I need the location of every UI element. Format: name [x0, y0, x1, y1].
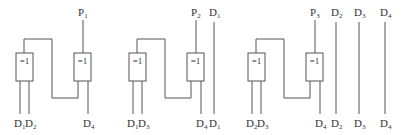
input-label-2: D3 [138, 117, 150, 131]
data-label-bottom: D3 [354, 117, 366, 131]
input-label-3: D4 [315, 117, 327, 131]
xor-gate-label: =1 [252, 56, 262, 66]
parity-label: P1 [78, 6, 88, 20]
xor-gate-1: =1 [129, 53, 146, 81]
xor-gate-2: =1 [187, 53, 204, 81]
xor-gate-label: =1 [78, 56, 88, 66]
data-label-top: D4 [380, 6, 392, 20]
xor-gate-2: =1 [74, 53, 91, 81]
xor-gate-2: =1 [306, 53, 323, 81]
data-label-bottom: D4 [380, 117, 392, 131]
parity-block-2: =1=1P2D1D3D4 [127, 6, 208, 131]
xor-gate-label: =1 [20, 56, 30, 66]
passthrough-line-D4: D4D4 [380, 6, 392, 131]
data-label-top: D1 [209, 6, 221, 20]
parity-block-1: =1=1P1D1D2D4 [14, 6, 95, 131]
passthrough-line-D1: D1D1 [209, 6, 221, 131]
parity-circuit-diagram: =1=1P1D1D2D4=1=1P2D1D3D4=1=1P3D2D3D4D1D1… [0, 0, 404, 135]
xor-gate-1: =1 [248, 53, 265, 81]
passthrough-line-D3: D3D3 [354, 6, 366, 131]
input-label-2: D3 [257, 117, 269, 131]
xor-gate-label: =1 [133, 56, 143, 66]
passthrough-line-D2: D2D2 [331, 6, 343, 131]
parity-label: P2 [191, 6, 201, 20]
xor-gate-label: =1 [191, 56, 201, 66]
data-label-bottom: D2 [331, 117, 343, 131]
parity-block-3: =1=1P3D2D3D4 [246, 6, 327, 131]
parity-label: P3 [310, 6, 320, 20]
data-label-top: D3 [354, 6, 366, 20]
xor-gate-label: =1 [310, 56, 320, 66]
input-label-3: D4 [83, 117, 95, 131]
input-label-2: D2 [25, 117, 37, 131]
xor-gate-1: =1 [16, 53, 33, 81]
data-label-bottom: D1 [209, 117, 221, 131]
data-label-top: D2 [331, 6, 343, 20]
input-label-3: D4 [196, 117, 208, 131]
